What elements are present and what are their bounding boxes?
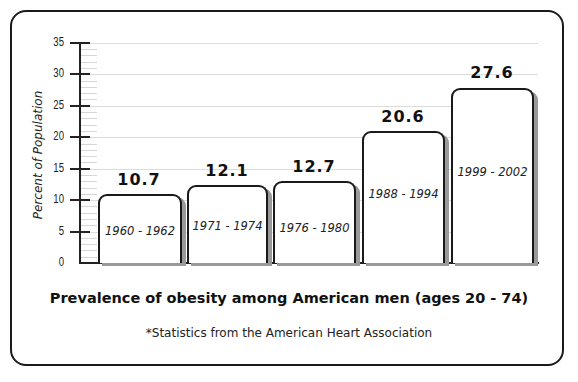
minor-tick bbox=[81, 244, 97, 245]
bar-1999-2002: 1999 - 2002 bbox=[451, 88, 534, 263]
minor-tick bbox=[81, 93, 97, 94]
minor-tick bbox=[81, 206, 97, 207]
minor-tick bbox=[81, 49, 97, 50]
bar-value-label: 12.1 bbox=[182, 161, 272, 180]
y-axis-label: Percent of Population bbox=[31, 91, 45, 220]
bar-1971-1974: 1971 - 1974 bbox=[187, 185, 268, 263]
minor-tick bbox=[81, 150, 97, 151]
minor-tick bbox=[81, 194, 97, 195]
minor-tick bbox=[81, 81, 97, 82]
y-tick-25 bbox=[70, 105, 90, 107]
bar-1988-1994: 1988 - 1994 bbox=[362, 131, 445, 263]
minor-tick bbox=[81, 156, 97, 157]
bar-1976-1980: 1976 - 1980 bbox=[273, 181, 356, 263]
source-note: *Statistics from the American Heart Asso… bbox=[0, 326, 578, 340]
bar-value-label: 12.7 bbox=[269, 157, 359, 176]
y-tick-35 bbox=[70, 42, 90, 44]
minor-tick bbox=[81, 87, 97, 88]
gridline-35 bbox=[90, 43, 538, 44]
bar-value-label: 20.6 bbox=[358, 107, 448, 126]
bar-category-label: 1960 - 1962 bbox=[100, 224, 180, 238]
bar-value-label: 10.7 bbox=[94, 170, 184, 189]
bar-category-label: 1971 - 1974 bbox=[189, 219, 266, 233]
minor-tick bbox=[81, 238, 97, 239]
minor-tick bbox=[81, 68, 97, 69]
minor-tick bbox=[81, 112, 97, 113]
y-tick-15 bbox=[70, 168, 90, 170]
y-tick-label: 0 bbox=[40, 255, 64, 269]
bar-category-label: 1976 - 1980 bbox=[275, 221, 354, 235]
minor-tick bbox=[81, 125, 97, 126]
plot-area: 35 30 25 20 15 10 5 0 Percent of Populat… bbox=[0, 0, 578, 382]
minor-tick bbox=[81, 257, 97, 258]
chart-title: Prevalence of obesity among American men… bbox=[0, 290, 578, 306]
bar-1960-1962: 1960 - 1962 bbox=[98, 194, 182, 263]
bar-value-label: 27.6 bbox=[447, 63, 537, 82]
minor-tick bbox=[81, 118, 97, 119]
minor-tick bbox=[81, 219, 97, 220]
y-tick-label: 5 bbox=[40, 224, 64, 238]
minor-tick bbox=[81, 99, 97, 100]
y-tick-30 bbox=[70, 73, 90, 75]
minor-tick bbox=[81, 55, 97, 56]
minor-tick bbox=[81, 62, 97, 63]
bar-category-label: 1999 - 2002 bbox=[453, 165, 532, 179]
y-tick-10 bbox=[70, 199, 90, 201]
bar-category-label: 1988 - 1994 bbox=[364, 187, 443, 201]
minor-tick bbox=[81, 213, 97, 214]
minor-tick bbox=[81, 250, 97, 251]
y-tick-label: 35 bbox=[40, 35, 64, 49]
minor-tick bbox=[81, 131, 97, 132]
y-tick-label: 30 bbox=[40, 66, 64, 80]
minor-tick bbox=[81, 162, 97, 163]
minor-tick bbox=[81, 144, 97, 145]
y-tick-5 bbox=[70, 231, 90, 233]
y-tick-20 bbox=[70, 136, 90, 138]
minor-tick bbox=[81, 225, 97, 226]
